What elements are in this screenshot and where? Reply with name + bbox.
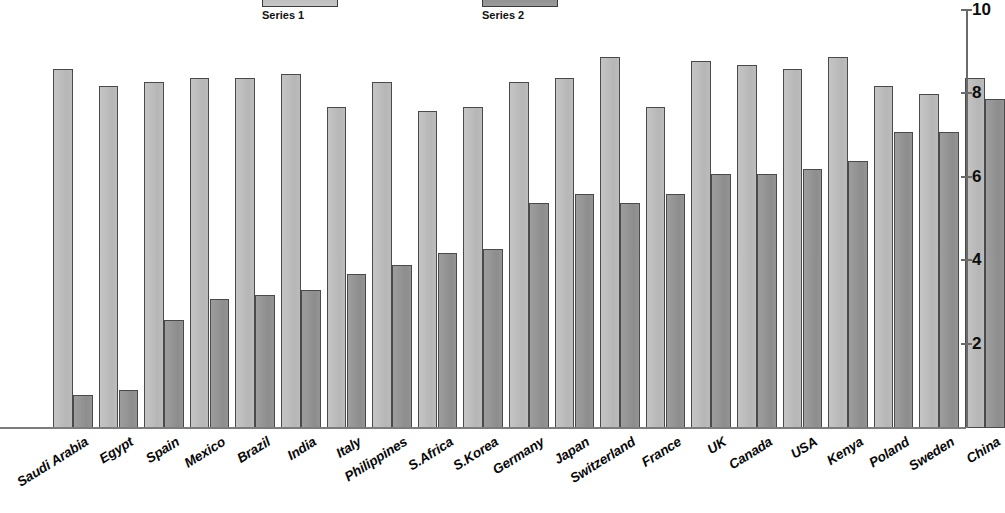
bar-series-1 (555, 78, 575, 428)
bar-series-1 (919, 94, 939, 428)
bar-series-1 (235, 78, 255, 428)
bar-series-2 (666, 194, 686, 428)
x-axis-category-labels: Saudi ArabiaEgyptSpainMexicoBrazilIndiaI… (0, 428, 983, 513)
y-axis-line (966, 10, 968, 428)
bar-series-2 (301, 290, 321, 428)
bar-series-1 (190, 78, 210, 428)
y-axis-tick-label: 4 (972, 251, 981, 268)
bar-group (737, 0, 777, 428)
bar-group (99, 0, 139, 428)
y-axis-tick-label: 10 (972, 1, 991, 18)
bar-series-2 (73, 395, 93, 428)
bar-group (418, 0, 458, 428)
bar-group (327, 0, 367, 428)
bar-series-1 (509, 82, 529, 428)
y-axis-tick (961, 343, 972, 345)
bar-series-1 (646, 107, 666, 428)
bar-series-2 (392, 265, 412, 428)
y-axis: 108642 (961, 0, 983, 440)
y-axis-tick (961, 176, 972, 178)
bar-series-2 (757, 174, 777, 428)
bar-series-1 (53, 69, 73, 428)
bar-group (600, 0, 640, 428)
bar-series-2 (483, 249, 503, 428)
y-axis-tick (961, 9, 972, 11)
bar-series-1 (874, 86, 894, 428)
bar-series-2 (119, 390, 139, 428)
bar-series-1 (828, 57, 848, 428)
bar-series-2 (985, 99, 1005, 428)
bar-series-group (0, 0, 956, 428)
bar-group (235, 0, 275, 428)
bar-series-1 (463, 107, 483, 428)
bar-series-1 (327, 107, 347, 428)
y-axis-tick (961, 259, 972, 261)
bar-group (372, 0, 412, 428)
bar-series-2 (803, 169, 823, 428)
bar-group (463, 0, 503, 428)
bar-group (281, 0, 321, 428)
bar-group (144, 0, 184, 428)
bar-series-2 (210, 299, 230, 428)
bar-series-1 (144, 82, 164, 428)
y-axis-tick (961, 92, 972, 94)
bar-group (828, 0, 868, 428)
bar-series-2 (620, 203, 640, 428)
y-axis-tick-label: 6 (972, 168, 981, 185)
bar-series-2 (347, 274, 367, 428)
bar-series-2 (848, 161, 868, 428)
bar-series-2 (711, 174, 731, 428)
y-axis-tick-label: 2 (972, 335, 981, 352)
bar-series-2 (939, 132, 959, 428)
bar-series-2 (529, 203, 549, 428)
bar-series-1 (691, 61, 711, 428)
bar-group (874, 0, 914, 428)
bar-series-2 (255, 295, 275, 428)
bar-series-1 (99, 86, 119, 428)
bar-group (783, 0, 823, 428)
bar-group (555, 0, 595, 428)
bar-group (919, 0, 959, 428)
bar-series-2 (164, 320, 184, 428)
bar-series-1 (281, 74, 301, 428)
bar-group (691, 0, 731, 428)
bar-series-1 (600, 57, 620, 428)
bar-group (646, 0, 686, 428)
plot-area (0, 0, 956, 428)
bar-group (509, 0, 549, 428)
bar-series-2 (894, 132, 914, 428)
bar-series-2 (575, 194, 595, 428)
bar-group (53, 0, 93, 428)
bar-series-1 (418, 111, 438, 428)
y-axis-tick-label: 8 (972, 84, 981, 101)
bar-series-1 (737, 65, 757, 428)
bar-series-1 (372, 82, 392, 428)
bar-series-2 (438, 253, 458, 428)
bar-group (190, 0, 230, 428)
bar-series-1 (783, 69, 803, 428)
